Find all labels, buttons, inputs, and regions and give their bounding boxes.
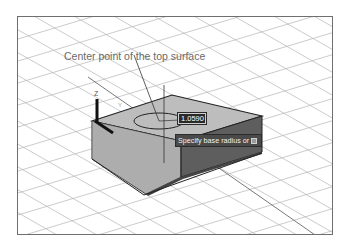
grid-line [258,17,333,235]
ucs-y-label: Y [118,102,122,108]
dynamic-input-radius[interactable]: 1.0590 [178,113,206,124]
ucs-z-label: Z [94,90,99,97]
grid-line [18,179,333,235]
drawing-viewport[interactable]: Z Y Center point of the top surface [17,16,333,235]
down-arrow-icon[interactable] [251,138,257,144]
tooltip-text: Specify base radius or [178,136,249,145]
callout-label: Center point of the top surface [64,50,205,62]
grid-line [18,17,333,45]
grid-line [18,17,333,23]
command-prompt-tooltip: Specify base radius or [175,134,262,147]
grid-line [18,223,333,235]
